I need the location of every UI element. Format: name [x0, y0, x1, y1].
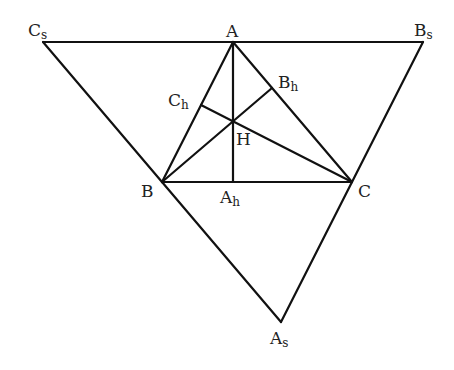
label-ah: Ah	[219, 187, 240, 209]
label-h: H	[236, 129, 251, 149]
labels: A B C H Ah Bh Ch As Bs Cs	[28, 20, 433, 350]
altitude-c	[201, 105, 352, 182]
label-c: C	[358, 181, 371, 201]
altitudes	[162, 42, 352, 182]
label-a: A	[225, 21, 239, 41]
label-bs: Bs	[414, 20, 433, 42]
inner-triangle	[162, 42, 352, 182]
label-as: As	[269, 328, 288, 350]
label-b: B	[141, 181, 154, 201]
label-cs: Cs	[28, 20, 47, 42]
segment-c-a	[233, 42, 352, 182]
label-ch: Ch	[168, 90, 189, 112]
label-bh: Bh	[278, 72, 299, 94]
geometry-diagram: A B C H Ah Bh Ch As Bs Cs	[0, 0, 454, 370]
segment-a-b	[162, 42, 233, 182]
